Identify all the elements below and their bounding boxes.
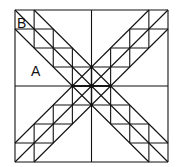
- quilt-block-figure: [0, 0, 182, 167]
- label-a: A: [31, 64, 40, 78]
- label-b: B: [17, 16, 26, 30]
